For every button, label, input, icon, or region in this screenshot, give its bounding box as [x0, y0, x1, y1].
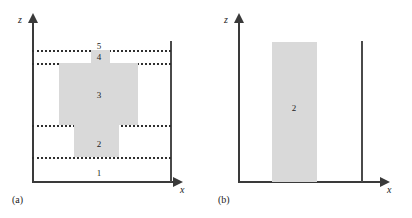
- region-label-2-b: 2: [284, 103, 304, 113]
- panel-caption-b: (b): [218, 194, 230, 205]
- z-axis-arrow-b: [234, 13, 244, 23]
- z-axis-arrow-a: [28, 13, 38, 23]
- z-axis-label-a: z: [18, 14, 22, 25]
- right-boundary-b: [361, 41, 363, 182]
- x-axis-label-a: x: [180, 184, 184, 195]
- panel-b: 2 z x (b): [206, 0, 412, 218]
- panel-caption-a: (a): [12, 194, 23, 205]
- region-label-1: 1: [89, 168, 109, 178]
- x-axis-a: [32, 181, 174, 183]
- region-label-4: 4: [89, 52, 109, 62]
- z-axis-label-b: z: [224, 14, 228, 25]
- x-axis-label-b: x: [387, 184, 391, 195]
- region-label-3: 3: [89, 90, 109, 100]
- region-label-5: 5: [89, 41, 109, 51]
- panel-a: 5 4 3 2 1 z x (a): [0, 0, 206, 218]
- figure-container: 5 4 3 2 1 z x (a) 2 z x (b): [0, 0, 412, 218]
- region-label-2: 2: [89, 139, 109, 149]
- z-axis-b: [238, 22, 240, 182]
- interface-lower-a: [32, 157, 171, 159]
